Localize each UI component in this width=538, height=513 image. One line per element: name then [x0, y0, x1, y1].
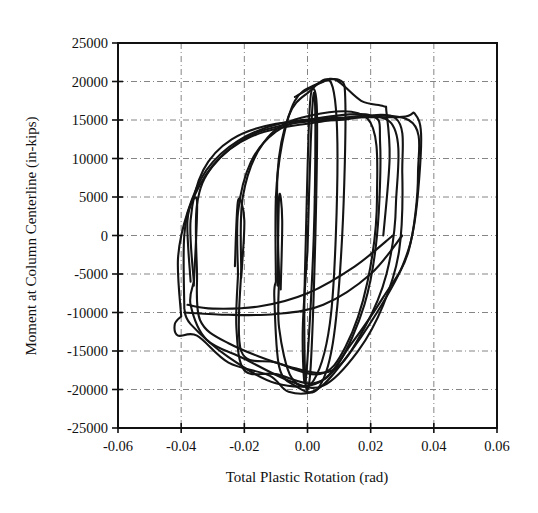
hysteresis-curves — [175, 79, 422, 394]
y-tick-label: 15000 — [72, 112, 108, 128]
y-axis-title: Moment at Column Centerline (in-kips) — [23, 116, 40, 355]
x-tick-label: 0.06 — [484, 438, 509, 454]
hysteresis-loop — [175, 113, 422, 394]
x-tick-label: 0.02 — [358, 438, 383, 454]
y-tick-label: -20000 — [67, 382, 108, 398]
y-tick-label: 5000 — [79, 189, 108, 205]
y-tick-label: -15000 — [67, 343, 108, 359]
x-axis-title: Total Plastic Rotation (rad) — [226, 469, 389, 486]
y-tick-label: 20000 — [72, 74, 108, 90]
y-tick-label: -25000 — [67, 420, 108, 436]
x-tick-label: -0.02 — [229, 438, 259, 454]
y-tick-label: 10000 — [72, 151, 108, 167]
hysteresis-loop — [235, 199, 244, 278]
x-tick-label: -0.04 — [166, 438, 197, 454]
y-tick-labels: 2500020000150001000050000-5000-10000-150… — [67, 35, 108, 436]
x-tick-label: 0.00 — [295, 438, 320, 454]
x-tick-labels: -0.06-0.04-0.020.000.020.040.06 — [103, 438, 510, 454]
y-tick-label: 25000 — [72, 35, 108, 51]
y-tick-label: 0 — [101, 228, 108, 244]
y-tick-label: -5000 — [74, 266, 108, 282]
x-tick-label: -0.06 — [103, 438, 133, 454]
x-tick-label: 0.04 — [421, 438, 447, 454]
y-tick-label: -10000 — [67, 305, 108, 321]
hysteresis-loop — [188, 236, 393, 309]
hysteresis-chart: -0.06-0.04-0.020.000.020.040.06 25000200… — [0, 0, 538, 513]
hysteresis-loop — [184, 236, 402, 316]
